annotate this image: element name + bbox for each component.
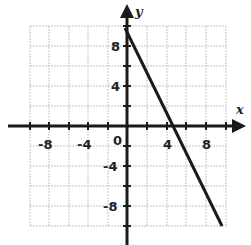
y-axis-arrow-icon bbox=[120, 4, 134, 18]
x-tick-label: 8 bbox=[202, 137, 211, 152]
x-tick-label: -4 bbox=[77, 137, 91, 152]
y-tick-label: 8 bbox=[111, 39, 120, 54]
x-axis-arrow-icon bbox=[232, 119, 246, 133]
y-tick-label: 4 bbox=[111, 79, 120, 94]
x-axis-label: x bbox=[235, 102, 244, 117]
y-tick-label: -4 bbox=[103, 159, 117, 174]
y-axis-label: y bbox=[134, 4, 144, 19]
origin-label: 0 bbox=[113, 133, 122, 148]
coordinate-plane: y x -8 -4 0 4 8 8 4 -4 -8 bbox=[0, 0, 251, 245]
y-tick-label: -8 bbox=[103, 199, 117, 214]
x-tick-label: 4 bbox=[163, 137, 172, 152]
x-tick-label: -8 bbox=[38, 137, 52, 152]
